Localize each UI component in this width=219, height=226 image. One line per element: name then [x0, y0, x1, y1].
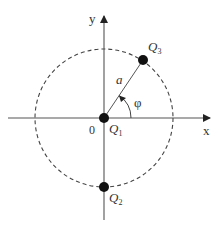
charge-q3 — [138, 55, 148, 65]
radius-label: a — [116, 73, 123, 86]
label-q1: Q1 — [109, 122, 122, 138]
angle-label: φ — [134, 96, 142, 109]
label-q2: Q2 — [109, 191, 122, 207]
charge-q2 — [99, 182, 109, 192]
charge-q1 — [99, 113, 109, 123]
origin-label: 0 — [89, 124, 95, 136]
label-q3: Q3 — [148, 40, 161, 56]
diagram-canvas: y x 0 a φ Q1 Q2 Q3 — [0, 0, 219, 226]
y-axis-label: y — [89, 12, 96, 25]
x-axis-label: x — [203, 124, 210, 137]
